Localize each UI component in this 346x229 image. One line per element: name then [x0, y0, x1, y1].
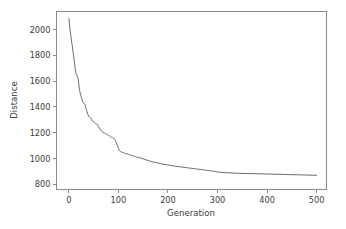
- x-axis-title: Generation: [167, 208, 215, 218]
- x-tick-label-200: 200: [160, 195, 176, 205]
- y-tick-label-800: 800: [35, 179, 51, 189]
- y-tick-label-1400: 1400: [30, 102, 51, 112]
- y-axis-title: Distance: [9, 81, 19, 119]
- y-tick-label-1000: 1000: [30, 154, 51, 164]
- line-chart-canvas: 800100012001400160018002000 010020030040…: [0, 0, 346, 229]
- y-tick-label-1200: 1200: [30, 128, 51, 138]
- y-tick-label-2000: 2000: [30, 25, 51, 35]
- x-tick-label-500: 500: [309, 195, 325, 205]
- chart-figure: 800100012001400160018002000 010020030040…: [0, 0, 346, 229]
- y-tick-label-1600: 1600: [30, 76, 51, 86]
- x-tick-label-300: 300: [210, 195, 226, 205]
- x-tick-label-0: 0: [66, 195, 71, 205]
- x-tick-label-100: 100: [111, 195, 127, 205]
- x-tick-label-400: 400: [259, 195, 275, 205]
- y-tick-label-1800: 1800: [30, 50, 51, 60]
